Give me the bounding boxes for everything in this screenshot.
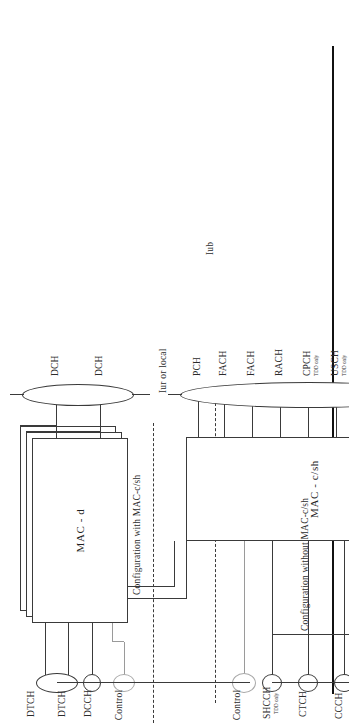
line-pch bbox=[198, 399, 199, 437]
label-cfg-with-macc-sh-top: Configuration with MAC-c/sh bbox=[132, 475, 142, 595]
separator-iur-or-local bbox=[153, 423, 154, 723]
label-fach-1: FACH bbox=[218, 351, 228, 376]
transport-channel-spine-dch-up bbox=[10, 394, 24, 395]
label-pch: PCH bbox=[192, 357, 202, 376]
mac-d-box[interactable]: MAC - d bbox=[32, 438, 128, 623]
transport-channel-spine-c-sh-up bbox=[168, 394, 182, 395]
label-fach-2: FACH bbox=[246, 351, 256, 376]
transport-channel-bundle-dch bbox=[22, 384, 134, 406]
logical-channel-bundle-ccch bbox=[334, 674, 349, 692]
label-iub: Iub bbox=[205, 242, 215, 255]
label-usch-1: USCH bbox=[330, 350, 340, 376]
logical-channel-spine-mid bbox=[124, 682, 250, 683]
label-dtch-1: DTCH bbox=[26, 690, 36, 717]
label-dtch-2: DTCH bbox=[57, 690, 67, 717]
label-cfg-without-macc-sh: Configuration without MAC-c/sh bbox=[300, 498, 310, 631]
mac-d-label: MAC - d bbox=[74, 439, 86, 622]
line-dch-1-stack-riser bbox=[20, 425, 56, 426]
cfg-without-macc-sh-bracket-vertical bbox=[272, 634, 349, 635]
logical-channel-spine-mid-2 bbox=[272, 682, 349, 683]
label-cpch-note: TDD only bbox=[313, 355, 319, 376]
label-dcch: DCCH bbox=[83, 690, 93, 717]
cfg-with-macc-sh-d-bracket-horizontal-2 bbox=[174, 541, 175, 587]
label-shcch-note: TDD only bbox=[273, 693, 279, 714]
cfg-with-macc-sh-d-bracket-horizontal bbox=[186, 541, 187, 599]
mac-c-sh-box[interactable]: MAC - c/sh bbox=[186, 437, 349, 541]
cfg-with-macc-sh-d-bracket-vertical bbox=[128, 598, 186, 599]
mac-architecture-diagram: MAC - d DTCH DTCH DCCH MAC Control DCH D… bbox=[0, 0, 349, 723]
line-dch-2-stack-riser bbox=[26, 431, 100, 432]
label-dch-1: DCH bbox=[50, 355, 60, 376]
line-ccch bbox=[344, 541, 345, 683]
line-mac-control-c-sh bbox=[244, 541, 245, 683]
label-rach: RACH bbox=[274, 349, 284, 376]
label-ccch: CCCH bbox=[334, 692, 344, 719]
logical-channel-bundle-ctch bbox=[298, 674, 318, 692]
label-usch-1-note: TDD only bbox=[341, 355, 347, 376]
line-mac-control-d-into-box bbox=[112, 623, 113, 642]
label-iur-or-local: Iur or local bbox=[158, 348, 168, 393]
line-mac-control-d-riser bbox=[112, 641, 124, 642]
transport-channel-spine-dch-down bbox=[132, 394, 150, 395]
label-mac-control-c-sh: MAC Control bbox=[232, 690, 242, 723]
label-mac-control-d: MAC Control bbox=[114, 690, 124, 723]
figure-page: MAC - d DTCH DTCH DCCH MAC Control DCH D… bbox=[0, 0, 349, 723]
transport-channel-bundle-c-sh bbox=[180, 382, 349, 408]
label-ctch: CTCH bbox=[298, 691, 308, 717]
line-shcch bbox=[272, 541, 273, 683]
label-cpch: CPCH bbox=[302, 350, 312, 376]
label-dch-2: DCH bbox=[94, 355, 104, 376]
label-shcch: SHCCH bbox=[262, 686, 272, 719]
logical-channel-spine-top bbox=[57, 682, 124, 683]
